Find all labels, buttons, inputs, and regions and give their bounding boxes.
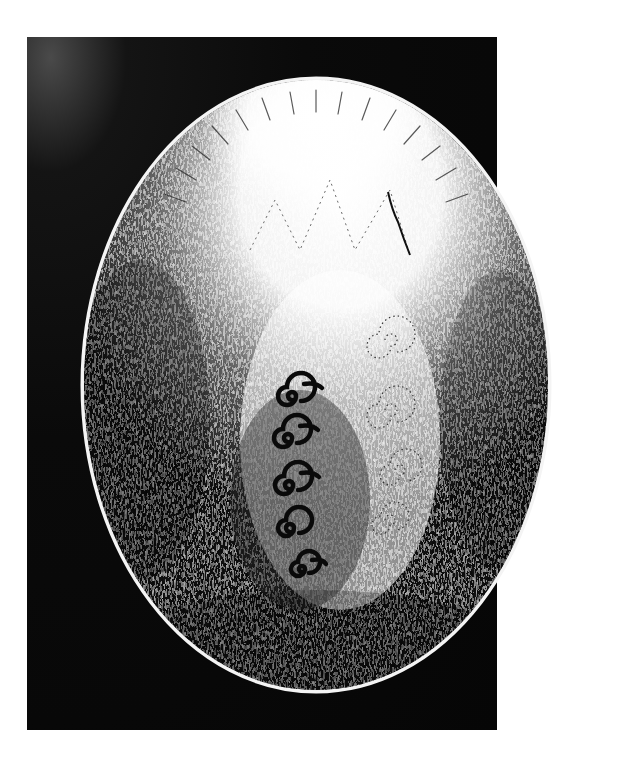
oval-interior	[70, 0, 590, 710]
engraved-oval-illustration	[0, 0, 632, 766]
